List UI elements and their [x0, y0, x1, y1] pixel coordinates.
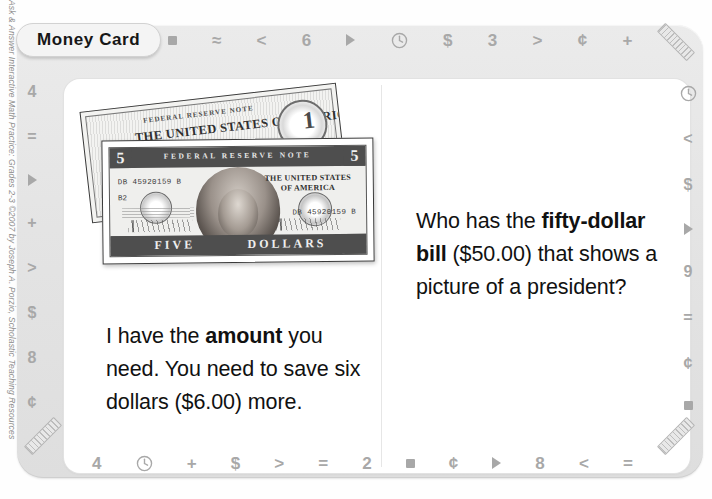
five-dollar-corner-tr: 5 — [343, 146, 365, 166]
money-card-page: Ask & Answer Interactive Math Practice: … — [0, 0, 712, 499]
symbol-¢: ¢ — [28, 395, 37, 411]
five-dollar-microtext — [122, 207, 194, 218]
five-dollar-face: FEDERAL RESERVE NOTE 5 5 5 5 DB 45920159… — [108, 145, 367, 258]
symbol-3: 3 — [488, 32, 497, 49]
answer-text-1: I have the — [106, 324, 205, 348]
triangle-icon — [28, 174, 37, 186]
symbol-$: $ — [443, 32, 452, 49]
symbol-6: 6 — [302, 32, 311, 49]
symbol-≈: ≈ — [212, 32, 221, 49]
square-icon — [168, 36, 177, 45]
symbol-+: + — [27, 215, 36, 231]
symbol-$: $ — [231, 455, 240, 472]
symbol-<: < — [257, 32, 267, 49]
symbol-4: 4 — [28, 84, 37, 100]
question-text-1: Who has the — [416, 209, 541, 233]
money-card-tab-label: Money Card — [37, 30, 140, 50]
five-dollar-plate-code: B2 — [118, 194, 127, 202]
answer-panel: I have the amount you need. You need to … — [106, 320, 368, 419]
symbol-<: < — [579, 455, 589, 472]
money-card-tab[interactable]: Money Card — [16, 23, 161, 57]
symbol-8: 8 — [28, 350, 37, 366]
top-symbol-strip: ≈<6$3>¢+ — [150, 25, 650, 55]
triangle-icon — [492, 457, 501, 469]
symbol->: > — [274, 455, 284, 472]
right-symbol-strip: <$9=¢ — [673, 70, 703, 425]
symbol-$: $ — [28, 305, 37, 321]
five-dollar-serial-right: DB 45920159 B — [292, 208, 356, 217]
question-panel: Who has the fifty-dollar bill ($50.00) t… — [416, 205, 678, 304]
symbol->: > — [27, 260, 36, 276]
answer-bold-term: amount — [205, 324, 282, 348]
five-dollar-word-left: FIVE — [154, 237, 195, 252]
symbol-¢: ¢ — [684, 356, 693, 372]
five-dollar-signature-right — [276, 218, 340, 231]
question-text-2: ($50.00) that shows a picture of a presi… — [416, 242, 657, 299]
symbol-¢: ¢ — [578, 32, 587, 49]
clock-icon — [680, 85, 697, 102]
symbol-$: $ — [684, 177, 693, 193]
money-illustration: FEDERAL RESERVE NOTE THE UNITED STATES O… — [80, 97, 370, 277]
symbol-=: = — [27, 129, 36, 145]
panel-divider — [381, 85, 382, 467]
square-icon — [406, 459, 415, 468]
symbol-+: + — [187, 455, 197, 472]
five-dollar-country-label: THE UNITED STATES OF AMERICA — [262, 173, 354, 194]
symbol-4: 4 — [92, 455, 101, 472]
clock-icon — [391, 32, 408, 49]
bottom-symbol-strip: 4+$>=2¢8<= — [75, 448, 650, 478]
symbol-=: = — [683, 310, 692, 326]
five-dollar-bottom-band — [110, 234, 366, 257]
symbol-=: = — [318, 455, 328, 472]
triangle-icon — [346, 34, 355, 46]
symbol-2: 2 — [362, 455, 371, 472]
triangle-icon — [684, 223, 693, 235]
clock-icon — [136, 455, 153, 472]
card-frame: FEDERAL RESERVE NOTE THE UNITED STATES O… — [17, 25, 703, 478]
copyright-notice: Ask & Answer Interactive Math Practice: … — [3, 0, 17, 460]
five-dollar-corner-tl: 5 — [109, 148, 131, 168]
symbol-8: 8 — [535, 455, 544, 472]
five-dollar-bill: FEDERAL RESERVE NOTE 5 5 5 5 DB 45920159… — [101, 138, 374, 265]
symbol-<: < — [683, 131, 692, 147]
square-icon — [684, 401, 693, 410]
five-dollar-serial-left: DB 45920159 B — [118, 178, 182, 187]
symbol->: > — [532, 32, 542, 49]
left-symbol-strip: 4=+>$8¢ — [17, 70, 47, 425]
card-inner-page: FEDERAL RESERVE NOTE THE UNITED STATES O… — [64, 79, 690, 473]
symbol-¢: ¢ — [449, 455, 458, 472]
symbol-+: + — [622, 32, 632, 49]
five-dollar-signature-left — [128, 219, 192, 232]
symbol-=: = — [623, 455, 633, 472]
symbol-9: 9 — [684, 264, 693, 280]
five-dollar-word-right: DOLLARS — [247, 236, 326, 252]
